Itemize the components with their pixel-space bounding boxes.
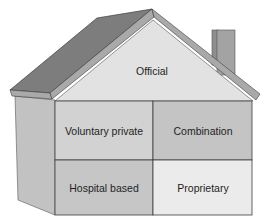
voluntary-private-label: Voluntary private [65,125,143,137]
hospital-based-label: Hospital based [69,182,138,194]
side-wall [15,96,55,215]
official-label: Official [136,65,168,77]
combination-label: Combination [174,125,233,137]
proprietary-label: Proprietary [177,182,228,194]
